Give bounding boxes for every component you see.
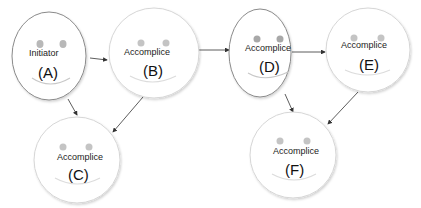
edge-a-c	[68, 99, 77, 115]
node-role-label: Initiator	[29, 48, 59, 58]
node-role-label: Accomplice	[245, 43, 291, 53]
eye-icon	[37, 40, 44, 48]
eye-icon	[277, 138, 284, 145]
eye-icon	[163, 40, 170, 47]
diagram-canvas: Initiator (A) Accomplice (B) Accomplice …	[0, 0, 421, 208]
node-id-label: (E)	[359, 56, 379, 73]
eye-icon	[254, 36, 261, 43]
eye-icon	[138, 40, 145, 47]
node-b[interactable]: Accomplice (B)	[109, 8, 199, 98]
node-id-label: (C)	[68, 166, 89, 183]
node-c[interactable]: Accomplice (C)	[34, 117, 120, 203]
edge-b-c	[113, 97, 143, 132]
node-f[interactable]: Accomplice (F)	[250, 112, 336, 198]
eye-icon	[304, 138, 311, 145]
node-id-label: (F)	[285, 161, 304, 178]
eye-icon	[277, 36, 284, 43]
node-role-label: Accomplice	[124, 47, 170, 57]
node-e[interactable]: Accomplice (E)	[326, 8, 410, 92]
eye-icon	[86, 144, 93, 151]
face-outline-e	[326, 8, 410, 92]
edge-a-b	[90, 58, 107, 60]
node-role-label: Accomplice	[273, 146, 319, 156]
node-id-label: (A)	[38, 64, 58, 81]
eye-icon	[60, 40, 67, 48]
node-id-label: (D)	[259, 58, 280, 75]
edge-d-f	[285, 94, 293, 112]
face-outline-d	[229, 9, 291, 97]
node-a[interactable]: Initiator (A)	[12, 12, 86, 100]
node-id-label: (B)	[143, 62, 163, 79]
node-role-label: Accomplice	[341, 40, 387, 50]
node-d[interactable]: Accomplice (D)	[229, 9, 291, 97]
node-role-label: Accomplice	[57, 152, 103, 162]
eye-icon	[60, 144, 67, 151]
edge-e-f	[328, 92, 358, 124]
